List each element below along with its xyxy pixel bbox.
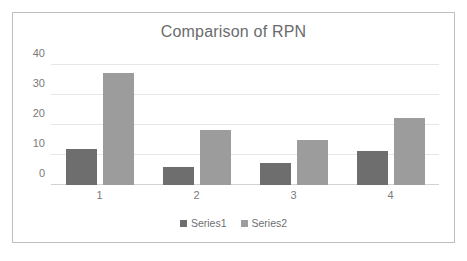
- legend-label: Series1: [191, 217, 227, 229]
- x-axis-tick-label: 4: [342, 189, 439, 201]
- bar-groups: [51, 65, 439, 185]
- bar-series2-4[interactable]: [394, 118, 425, 186]
- y-axis-tick-label: 20: [33, 107, 45, 119]
- plot-area: 010203040: [51, 65, 439, 185]
- bar-group: [148, 65, 245, 185]
- bar-series1-3[interactable]: [260, 163, 291, 186]
- bar-series2-1[interactable]: [103, 73, 134, 186]
- chart-title: Comparison of RPN: [13, 23, 454, 41]
- legend-swatch-icon: [180, 220, 187, 227]
- y-axis-tick-label: 40: [33, 47, 45, 59]
- x-axis-tick-label: 2: [148, 189, 245, 201]
- bar-series1-2[interactable]: [163, 167, 194, 185]
- bar-group: [245, 65, 342, 185]
- bar-group: [51, 65, 148, 185]
- chart-legend: Series1Series2: [13, 217, 454, 229]
- legend-item-series2[interactable]: Series2: [241, 217, 288, 229]
- y-axis-tick-label: 10: [33, 137, 45, 149]
- x-axis-labels: 1234: [51, 189, 439, 201]
- chart-container: Comparison of RPN 010203040 1234 Series1…: [12, 12, 455, 243]
- bar-series2-2[interactable]: [200, 130, 231, 186]
- legend-label: Series2: [252, 217, 288, 229]
- x-axis-tick-label: 1: [51, 189, 148, 201]
- x-axis-tick-label: 3: [245, 189, 342, 201]
- y-axis-tick-label: 0: [39, 167, 45, 179]
- legend-item-series1[interactable]: Series1: [180, 217, 227, 229]
- bar-group: [342, 65, 439, 185]
- y-axis-tick-label: 30: [33, 77, 45, 89]
- bar-series2-3[interactable]: [297, 140, 328, 185]
- bar-series1-1[interactable]: [66, 149, 97, 185]
- bar-series1-4[interactable]: [357, 151, 388, 186]
- legend-swatch-icon: [241, 220, 248, 227]
